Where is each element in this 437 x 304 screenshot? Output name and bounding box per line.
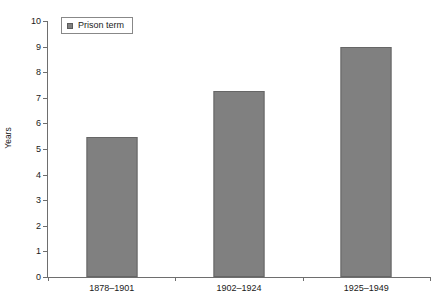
plot-area (48, 21, 430, 277)
y-axis-tick-label: 4 (3, 170, 41, 179)
legend-swatch-icon (67, 23, 73, 29)
y-axis-tick-label: 6 (3, 119, 41, 128)
y-axis-tick-label: 0 (3, 273, 41, 282)
x-axis-tick (175, 277, 176, 281)
y-axis-tick (43, 21, 47, 22)
y-axis-tick-label: 10 (3, 17, 41, 26)
y-axis-tick (43, 72, 47, 73)
y-axis-tick-label: 5 (3, 145, 41, 154)
y-axis-tick-label: 2 (3, 221, 41, 230)
x-axis-category-label: 1902–1924 (216, 283, 261, 293)
x-axis-tick (430, 277, 431, 281)
bar-chart: Years 109876543210 1878–19011902–1924192… (0, 0, 437, 304)
y-axis-tick (43, 47, 47, 48)
bar (213, 91, 264, 277)
x-axis-tick (48, 277, 49, 281)
bar (341, 47, 392, 277)
y-axis-tick-label: 9 (3, 42, 41, 51)
x-axis-category-label: 1878–1901 (89, 283, 134, 293)
bar-slot (48, 21, 175, 277)
bar (86, 137, 137, 277)
x-axis-category-label: 1925–1949 (344, 283, 389, 293)
y-axis-tick (43, 200, 47, 201)
legend-label: Prison term (78, 21, 124, 30)
y-axis-tick-label: 7 (3, 93, 41, 102)
x-axis-line (47, 277, 430, 278)
y-axis-tick (43, 175, 47, 176)
y-axis-tick (43, 277, 47, 278)
x-axis-tick (303, 277, 304, 281)
bar-slot (175, 21, 302, 277)
y-axis-tick-label: 1 (3, 247, 41, 256)
y-axis-tick (43, 226, 47, 227)
bar-slot (303, 21, 430, 277)
y-axis-tick-label: 3 (3, 196, 41, 205)
y-axis-tick (43, 251, 47, 252)
chart-legend: Prison term (61, 17, 133, 34)
y-axis-tick (43, 123, 47, 124)
y-axis-tick (43, 149, 47, 150)
y-axis-tick-label: 8 (3, 68, 41, 77)
y-axis-tick (43, 98, 47, 99)
